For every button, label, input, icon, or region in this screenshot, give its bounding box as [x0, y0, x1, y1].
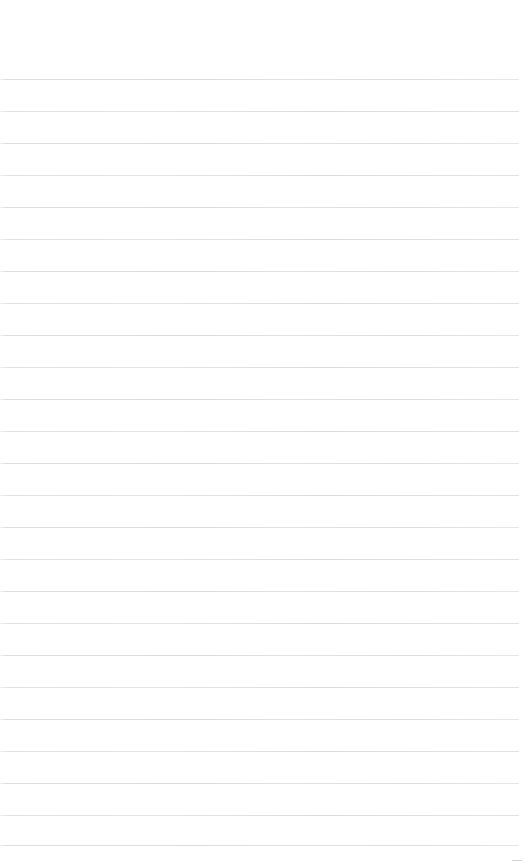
- rule-line: [0, 719, 519, 720]
- rule-line: [0, 175, 519, 176]
- lined-paper-page: [0, 0, 525, 868]
- rule-line: [0, 143, 519, 144]
- rule-line: [0, 367, 519, 368]
- rule-line: [0, 751, 519, 752]
- rule-line: [0, 845, 519, 846]
- rule-line: [0, 527, 519, 528]
- rule-line: [0, 335, 519, 336]
- rule-line: [0, 463, 519, 464]
- rule-line: [0, 687, 519, 688]
- rule-line: [0, 655, 519, 656]
- rule-line: [0, 303, 519, 304]
- rule-line: [0, 399, 519, 400]
- rule-line: [0, 79, 519, 80]
- rule-line: [0, 431, 519, 432]
- rule-line: [0, 239, 519, 240]
- rule-line: [0, 559, 519, 560]
- rule-line: [0, 111, 519, 112]
- rule-line: [0, 271, 519, 272]
- rule-line: [0, 815, 519, 816]
- rule-line: [0, 591, 519, 592]
- rule-line: [0, 783, 519, 784]
- rule-line: [0, 495, 519, 496]
- rule-line: [0, 623, 519, 624]
- rule-line: [0, 207, 519, 208]
- bottom-right-dash: [512, 860, 522, 861]
- ruled-lines-group: [0, 0, 525, 868]
